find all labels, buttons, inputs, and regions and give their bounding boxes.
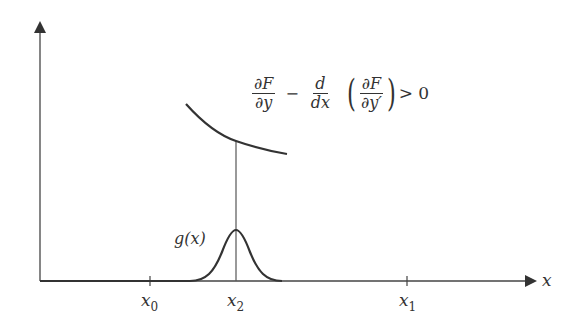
diagram-canvas (0, 0, 572, 328)
tick-label-x0: x0 (141, 290, 158, 310)
tick-base: x (141, 290, 151, 310)
greater-than-zero: > 0 (399, 83, 429, 103)
fraction-d-dx: d dx (309, 75, 332, 112)
numerator: ∂F (360, 75, 383, 94)
denominator: dx (309, 94, 332, 112)
close-paren: ) (387, 73, 396, 113)
tick-base: x (227, 290, 237, 310)
fraction-dF-dy: ∂F ∂y (252, 75, 275, 112)
y-axis-arrow-icon (34, 21, 46, 33)
denominator: ∂y (253, 94, 274, 112)
tick-subscript: 0 (151, 300, 159, 314)
tick-subscript: 1 (409, 300, 417, 314)
minus-sign: − (285, 84, 298, 103)
open-paren: ( (347, 73, 356, 113)
tick-subscript: 2 (237, 300, 245, 314)
x-axis-arrow-icon (525, 275, 537, 287)
numerator: ∂F (252, 75, 275, 94)
numerator: d (313, 75, 327, 94)
tick-label-x1: x1 (399, 290, 416, 310)
fraction-dF-dyprime: ∂F ∂y′ (359, 75, 384, 112)
euler-lagrange-inequality: ∂F ∂y − d dx ( ∂F ∂y′ ) > 0 (252, 73, 429, 113)
g-of-x-label: g(x) (174, 229, 206, 248)
denominator: ∂y′ (359, 94, 384, 112)
x-axis-label: x (542, 270, 552, 290)
g-bump-curve (40, 230, 282, 281)
tick-base: x (399, 290, 409, 310)
tick-label-x2: x2 (227, 290, 244, 310)
